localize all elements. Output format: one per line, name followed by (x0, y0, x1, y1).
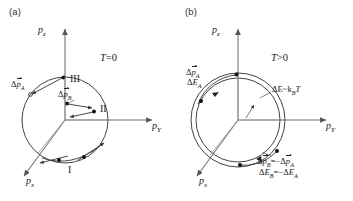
px-axis (197, 120, 238, 176)
thermal-tail: T (296, 84, 301, 94)
dpA-p: p (17, 79, 21, 89)
rel-E-sub2: A (294, 172, 298, 179)
py-sub-b: Y (331, 126, 335, 134)
panel-b: (b) T>0 pz pY px ΔpA ΔEA ΔE~kBT ΔpB=−ΔpA… (176, 0, 353, 201)
region-label-I: I (68, 164, 71, 175)
px-axis-label-a: px (26, 175, 34, 189)
rel-p-eq: =− (271, 156, 281, 166)
sector-line-down (38, 120, 65, 153)
T-value-b: 0 (283, 52, 288, 63)
rel-p-p2: p (286, 156, 290, 166)
pz-sub-a: z (43, 30, 46, 38)
b-dEA-sub: A (198, 82, 202, 89)
pz-axis-label-a: pz (38, 24, 46, 38)
region-II-dot-b (92, 110, 96, 114)
relation-energy: ΔEB=−ΔEA (259, 168, 298, 179)
py-sub-a: Y (157, 126, 161, 134)
px-axis-label-b: px (199, 175, 207, 189)
shell-width-indicator (246, 105, 254, 118)
region-II-arrow-out (68, 104, 92, 108)
pz-sub-b: z (217, 30, 220, 38)
delta-E-A-label-b: ΔEA (187, 78, 202, 89)
panel-a-tag: (a) (9, 6, 21, 17)
shell-arc-upper-arrowhead (212, 92, 219, 97)
shell-dot-top (235, 73, 239, 77)
region-label-III: III (70, 73, 80, 84)
rel-E-eq: =− (274, 167, 284, 177)
shell-dot-bottom (238, 163, 242, 167)
py-axis-label-a: pY (152, 120, 161, 134)
shell-dot-lower-right (275, 149, 279, 153)
region-I-arrow-right (78, 143, 104, 160)
delta-p-A-label-a: ΔpA (11, 80, 25, 91)
shell-width-leader (260, 92, 271, 98)
temperature-condition-a: T=0 (100, 52, 117, 63)
px-sub-b: x (204, 181, 207, 189)
rel-p-p1: p (263, 156, 267, 166)
panel-a-graphics (0, 0, 176, 201)
b-dpA-p: p (192, 67, 196, 77)
thermal-head: ΔE~k (272, 84, 292, 94)
region-I-dot-b (82, 155, 86, 159)
T-value-a: 0 (112, 52, 117, 63)
shell-arc-upper (198, 75, 236, 104)
shell-dot-upper-left (199, 99, 203, 103)
sector-line-down (210, 120, 238, 155)
delta-p-B-label-a: ΔpB (58, 90, 72, 101)
px-sub-a: x (31, 181, 34, 189)
px-axis (24, 120, 65, 176)
momentum-space-figure: (a) T=0 pz pY px III II I ΔpA ΔpB (0, 0, 353, 201)
dpB-sub: B (68, 94, 72, 101)
temperature-condition-b: T>0 (271, 52, 288, 63)
pz-axis-label-b: pz (212, 24, 220, 38)
dpA-sub: A (21, 84, 25, 91)
region-II-arrow-in (70, 112, 93, 117)
region-label-II: II (100, 103, 107, 114)
py-axis-label-b: pY (326, 120, 335, 134)
region-I-dot-a (57, 158, 61, 162)
dpB-p: p (64, 89, 68, 99)
thermal-width-label: ΔE~kBT (272, 85, 300, 96)
panel-b-tag: (b) (185, 6, 197, 17)
panel-a: (a) T=0 pz pY px III II I ΔpA ΔpB (0, 0, 176, 201)
